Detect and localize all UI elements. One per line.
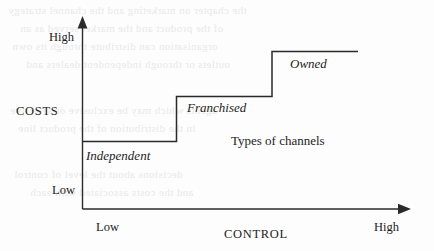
step-label-franchised: Franchised [187,100,246,116]
y-axis-title-costs: COSTS [16,104,58,119]
step-label-owned: Owned [290,56,327,72]
y-axis-tick-high: High [49,30,74,45]
x-axis [83,204,412,214]
y-axis-tick-low: Low [52,183,75,198]
x-axis-tick-high: High [374,220,399,235]
y-axis [78,16,88,209]
annotation-types-of-channels: Types of channels [231,133,325,149]
step-label-independent: Independent [86,148,150,164]
x-axis-title-control: CONTROL [224,227,288,242]
channel-costs-control-figure: the chapter on marketing and the channel… [0,0,434,251]
x-axis-tick-low: Low [96,220,119,235]
